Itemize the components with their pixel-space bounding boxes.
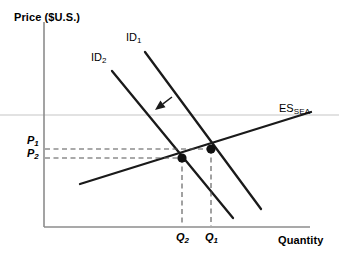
quantity-tick-q1-text: Q bbox=[205, 231, 214, 243]
price-tick-p1-subscript: 1 bbox=[34, 139, 38, 148]
demand-shift-arrow bbox=[155, 97, 172, 110]
quantity-tick-label-q1: Q1 bbox=[205, 232, 218, 243]
import-demand-curve-2 bbox=[112, 71, 233, 218]
curve-label-id1-text: ID bbox=[126, 31, 137, 43]
equilibrium-point-2 bbox=[177, 153, 186, 162]
curve-label-id2-text: ID bbox=[91, 51, 102, 63]
quantity-tick-q2-text: Q bbox=[176, 231, 185, 243]
quantity-tick-q1-subscript: 1 bbox=[214, 236, 218, 245]
curve-label-id2-subscript: 2 bbox=[102, 56, 106, 65]
equilibrium-point-1 bbox=[206, 144, 215, 153]
price-tick-label-p2: P2 bbox=[27, 148, 39, 159]
supply-demand-figure: Price ($U.S.) Quantity ID1 ID2 ESSEA P1 … bbox=[0, 0, 339, 264]
curve-label-id2: ID2 bbox=[91, 52, 106, 63]
price-tick-p2-subscript: 2 bbox=[34, 152, 38, 161]
quantity-tick-q2-subscript: 2 bbox=[185, 236, 189, 245]
curve-label-es-sea: ESSEA bbox=[279, 103, 310, 114]
curve-label-id1: ID1 bbox=[126, 32, 141, 43]
quantity-tick-label-q2: Q2 bbox=[176, 232, 189, 243]
curve-label-id1-subscript: 1 bbox=[137, 36, 141, 45]
curve-label-es-subscript: SEA bbox=[294, 107, 311, 116]
x-axis-title: Quantity bbox=[278, 235, 323, 246]
price-tick-label-p1: P1 bbox=[27, 135, 39, 146]
y-axis-title: Price ($U.S.) bbox=[14, 12, 80, 23]
figure-canvas bbox=[0, 0, 339, 264]
curve-label-es-text: ES bbox=[279, 102, 294, 114]
